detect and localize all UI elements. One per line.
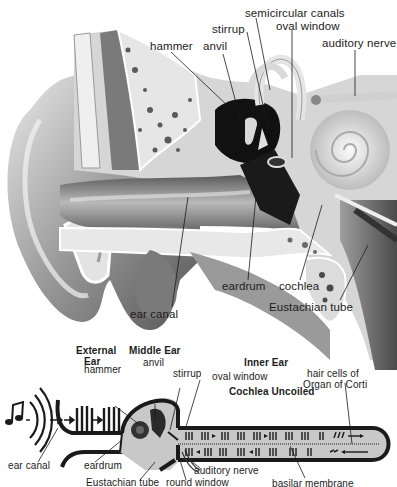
label-oval-window: oval window	[276, 20, 340, 32]
label-eustachian-tube: Eustachian tube	[269, 301, 353, 313]
schem-label-hair-cells-line2: Organ of Corti	[303, 379, 367, 390]
label-stirrup: stirrup	[212, 23, 245, 35]
section-middle-ear: Middle Ear	[129, 345, 181, 356]
schem-label-stirrup: stirrup	[173, 368, 201, 379]
schem-label-auditory-nerve: auditory nerve	[194, 465, 259, 476]
section-inner-ear: Inner Ear	[244, 357, 288, 368]
schem-label-eardrum: eardrum	[84, 460, 122, 471]
schem-label-anvil: anvil	[143, 357, 164, 368]
label-semicircular-canals: semicircular canals	[245, 7, 345, 19]
schem-label-ear-canal: ear canal	[8, 460, 50, 471]
label-ear-canal: ear canal	[130, 308, 178, 320]
schem-label-basilar-membrane: basilar membrane	[272, 478, 354, 487]
section-external-ear-line1: External	[76, 345, 116, 356]
temporal-bone	[60, 30, 397, 370]
ear-anatomy-illustration	[0, 0, 397, 487]
label-cochlea: cochlea	[279, 280, 319, 292]
label-anvil: anvil	[203, 40, 227, 52]
schem-label-eustachian-tube: Eustachian tube	[86, 477, 159, 487]
schem-label-oval-window: oval window	[212, 371, 268, 382]
label-hammer: hammer	[150, 40, 193, 52]
section-cochlea-uncoiled: Cochlea Uncoiled	[229, 386, 315, 397]
schematic-diagram	[5, 388, 389, 472]
label-auditory-nerve: auditory nerve	[322, 37, 396, 49]
ear-diagram: hammer anvil stirrup semicircular canals…	[0, 0, 397, 487]
label-eardrum: eardrum	[222, 280, 266, 292]
schem-label-round-window: round window	[166, 477, 229, 487]
schem-label-hammer: hammer	[84, 364, 121, 375]
schem-label-hair-cells-line1: hair cells of	[307, 368, 359, 379]
